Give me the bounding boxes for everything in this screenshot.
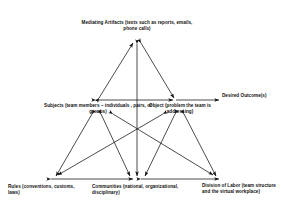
edge-artifacts-object [141,43,174,98]
node-label-subjects: Subjects (team members – individuals , p… [42,103,154,115]
edge-subjects-communities [101,114,130,176]
diagram-canvas: Mediating Artifacts (texts such as repor… [0,0,294,220]
node-label-mediating-artifacts: Mediating Artifacts (texts such as repor… [80,20,194,32]
edge-object-communities [145,114,175,176]
node-label-division-of-labor: Division of Labor (team structure and th… [202,183,280,195]
node-label-object: Object (problem the team is addressing) [140,103,220,115]
edge-subjects-division [113,114,213,175]
node-label-desired-outcomes: Desired Outcome(s) [222,93,284,99]
edge-object-rules [58,114,163,175]
edge-subjects-artifacts [99,43,133,98]
edge-subjects-rules [56,114,92,176]
node-label-rules: Rules (conventions, customs, laws) [8,184,86,196]
node-label-communities: Communities (national, organizational, d… [92,184,190,196]
